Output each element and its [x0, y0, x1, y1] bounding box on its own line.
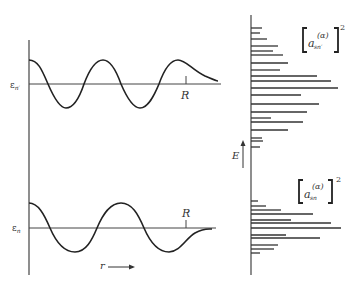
svg-text:sn′: sn′ — [314, 43, 323, 50]
r-arrow-head-icon — [129, 265, 135, 270]
lower-coefficient-bars — [251, 201, 341, 253]
lower-coefficient-label: a sn (α) 2 — [299, 175, 341, 203]
lower-level-label: εn — [12, 223, 21, 234]
svg-text:(α): (α) — [317, 31, 329, 40]
svg-text:(α): (α) — [312, 182, 324, 191]
svg-text:2: 2 — [340, 23, 345, 32]
energy-label: E — [231, 150, 240, 161]
upper-coefficient-label: a sn′ (α) 2 — [303, 23, 345, 52]
r-axis-label: r — [100, 260, 106, 271]
svg-text:2: 2 — [336, 175, 341, 184]
upper-coefficient-bars — [251, 28, 338, 147]
lower-boundary-label: R — [181, 207, 190, 220]
svg-text:sn: sn — [310, 194, 317, 201]
energy-arrow-head-icon — [241, 140, 246, 146]
wavefunction-diagram: R εn′ R εn r E a sn′ (α) 2 a sn (α) 2 — [0, 0, 354, 286]
upper-level-label: εn′ — [10, 80, 21, 91]
upper-boundary-label: R — [180, 89, 189, 102]
